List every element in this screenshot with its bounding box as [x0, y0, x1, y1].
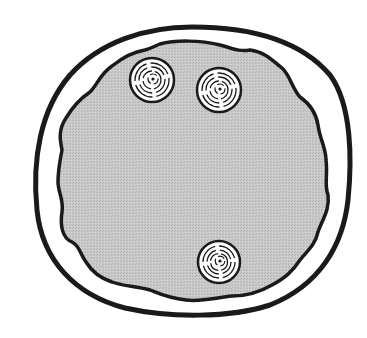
colony-3-icon [198, 241, 240, 283]
petri-dish-illustration [0, 0, 367, 338]
inner-medium [58, 41, 328, 300]
diagram-canvas [0, 0, 367, 338]
colony-2-icon [197, 68, 241, 112]
colony-1-icon [130, 58, 174, 102]
